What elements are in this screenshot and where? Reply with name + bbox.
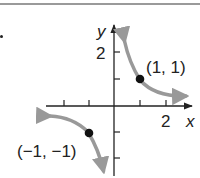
x-tick-label-2: 2: [161, 112, 170, 131]
x-ticks: [64, 100, 166, 106]
point-label-neg: (−1, −1): [17, 142, 77, 161]
x-axis-label: x: [185, 112, 195, 131]
point-label-pos: (1, 1): [146, 58, 186, 77]
y-ticks: [114, 52, 120, 158]
point-neg1-neg1: [85, 129, 94, 138]
point-1-1: [136, 75, 145, 84]
y-tick-label-2: 2: [96, 44, 105, 63]
hyperbola-plot: y 2 2 x (1, 1) (−1, −1): [0, 0, 200, 178]
y-axis-label: y: [96, 22, 107, 41]
